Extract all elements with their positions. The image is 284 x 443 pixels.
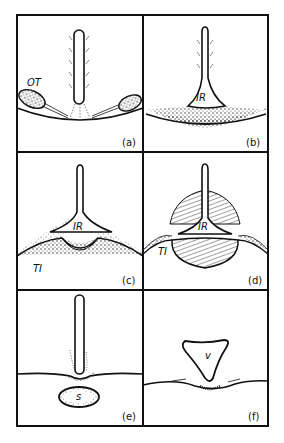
caption-a: (a): [122, 137, 136, 148]
label-ir-b: IR: [196, 92, 206, 103]
panel-b: IR (b): [146, 27, 266, 148]
caption-e: (e): [122, 411, 136, 422]
label-ti-c: TI: [33, 263, 42, 274]
panel-a: OT (a): [16, 30, 144, 148]
label-ti-d: TI: [158, 246, 167, 257]
panel-f: v (f): [143, 340, 268, 422]
caption-c: (c): [122, 275, 135, 286]
label-ir-d: IR: [198, 221, 208, 232]
figure-diagram: OT (a) IR (b) IR TI (c) IR TI (d): [0, 0, 284, 443]
panel-e: s (e): [17, 295, 143, 422]
panel-d: IR TI (d): [143, 164, 268, 286]
caption-b: (b): [246, 137, 260, 148]
label-ot: OT: [27, 77, 42, 88]
caption-d: (d): [248, 275, 262, 286]
caption-f: (f): [248, 411, 259, 422]
panel-c: IR TI (c): [17, 165, 143, 286]
label-s: s: [76, 391, 81, 402]
label-ir-c: IR: [73, 221, 83, 232]
